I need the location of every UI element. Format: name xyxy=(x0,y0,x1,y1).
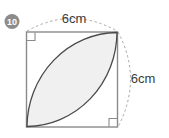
right-dimension-arc xyxy=(118,32,131,127)
geometry-figure: 10 6cm 6cm xyxy=(0,0,169,138)
lens-region xyxy=(27,33,117,127)
right-angle-mark-bottom-right xyxy=(109,119,117,127)
top-dimension-label: 6cm xyxy=(62,11,87,26)
question-number-label: 10 xyxy=(7,17,17,27)
right-angle-mark-top-left xyxy=(27,33,35,41)
figure-canvas: 10 6cm 6cm xyxy=(0,0,169,138)
right-dimension-label: 6cm xyxy=(131,71,156,86)
